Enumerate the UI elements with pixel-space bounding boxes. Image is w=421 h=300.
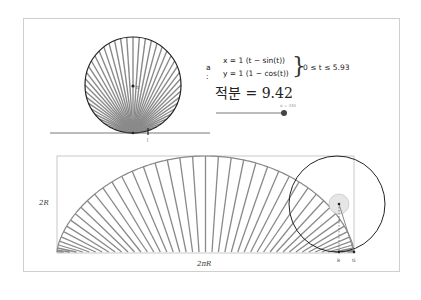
- center-point-label: D: [136, 85, 139, 90]
- parameter-range: 0 ≤ t ≤ 5.93: [303, 63, 350, 72]
- point-g-label: G: [352, 258, 356, 263]
- point-b-label: B: [337, 258, 340, 263]
- equation-x: x = 1 (t − sin(t)): [223, 56, 285, 65]
- geometry-canvas[interactable]: D J B G 2R 2πR: [0, 0, 421, 300]
- slider-label: α = 340: [280, 103, 296, 108]
- center-point-d[interactable]: [131, 84, 134, 87]
- cycloid-spokes: [57, 156, 354, 252]
- slider-knob[interactable]: [281, 110, 287, 116]
- integral-value: 적분 = 9.42: [215, 82, 293, 102]
- contact-point[interactable]: [132, 132, 134, 134]
- curve-name: a :: [206, 63, 211, 81]
- point-j-label: J: [146, 137, 148, 142]
- equation-y: y = 1 (1 − cos(t)): [223, 69, 289, 78]
- point-b[interactable]: [338, 251, 341, 254]
- point-g[interactable]: [353, 251, 356, 254]
- width-label: 2πR: [196, 260, 212, 268]
- height-label: 2R: [38, 199, 49, 207]
- big-circle-center[interactable]: [338, 203, 341, 206]
